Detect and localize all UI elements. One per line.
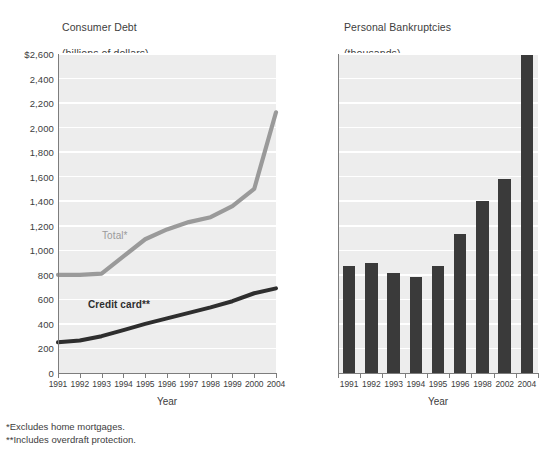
x-axis-tick — [494, 373, 495, 378]
bar — [521, 55, 533, 373]
x-axis-tick-label: 1996 — [451, 379, 470, 389]
y-axis-tick-label: 1,200 — [30, 220, 54, 231]
x-axis-tick — [516, 373, 517, 378]
bar — [432, 266, 444, 373]
y-axis-tick-label: 800 — [38, 269, 54, 280]
x-axis-tick — [232, 373, 233, 378]
x-axis-tick-label: 1997 — [180, 379, 199, 389]
gridline — [338, 127, 538, 129]
bar — [343, 266, 355, 373]
gridline — [338, 151, 538, 153]
x-axis-caption-personal-bankruptcies: Year — [428, 396, 448, 407]
y-axis-tick-label: 1,400 — [30, 196, 54, 207]
x-axis-tick — [405, 373, 406, 378]
x-axis-tick-label: 2000 — [245, 379, 264, 389]
x-axis-tick — [471, 373, 472, 378]
x-axis-tick — [254, 373, 255, 378]
series-label-total: Total* — [102, 230, 128, 241]
bar — [476, 201, 488, 373]
x-axis-tick — [167, 373, 168, 378]
x-axis-tick-label: 1994 — [407, 379, 426, 389]
y-axis-labels-consumer-debt: 02004006008001,0001,2001,4001,6001,8002,… — [2, 54, 54, 373]
x-axis-tick-label: 1991 — [49, 379, 68, 389]
x-axis-tick-label: 2004 — [518, 379, 537, 389]
plot-area-personal-bankruptcies — [338, 54, 538, 373]
footnote-1: *Excludes home mortgages. — [6, 420, 136, 433]
x-axis-caption-consumer-debt: Year — [157, 396, 177, 407]
x-axis-tick-label: 1991 — [340, 379, 359, 389]
y-axis-tick-label: 2,200 — [30, 98, 54, 109]
x-axis-tick — [189, 373, 190, 378]
x-axis-tick-label: 1995 — [136, 379, 155, 389]
gridline — [338, 78, 538, 80]
x-axis-tick — [276, 373, 277, 378]
plot-area-consumer-debt: Total* Credit card** — [58, 54, 276, 373]
y-axis-tick-label: 600 — [38, 294, 54, 305]
gridline — [338, 176, 538, 178]
bar — [387, 273, 399, 373]
x-axis-tick — [211, 373, 212, 378]
y-axis-tick-label: 2,000 — [30, 122, 54, 133]
y-axis-tick-label: 400 — [38, 318, 54, 329]
x-axis-tick — [145, 373, 146, 378]
x-axis-tick — [382, 373, 383, 378]
figure-consumer-debt-bankruptcies: Consumer Debt (billions of dollars) Tota… — [0, 0, 555, 462]
x-axis-tick-label: 1992 — [71, 379, 90, 389]
series-line-total — [58, 112, 276, 275]
x-axis-tick-label: 1998 — [201, 379, 220, 389]
chart-title-main: Consumer Debt — [62, 21, 149, 34]
x-axis-tick-label: 1998 — [473, 379, 492, 389]
gridline — [338, 53, 538, 55]
series-line-credit-card — [58, 288, 276, 342]
chart-panel-consumer-debt: Consumer Debt (billions of dollars) Tota… — [0, 0, 290, 418]
x-axis-tick — [427, 373, 428, 378]
x-axis-tick-label: 1994 — [114, 379, 133, 389]
x-axis-tick — [538, 373, 539, 378]
x-axis-tick — [360, 373, 361, 378]
y-axis-tick-label: $2,600 — [24, 49, 54, 60]
y-axis-tick-label: 2,400 — [30, 73, 54, 84]
gridline — [338, 102, 538, 104]
series-label-credit-card: Credit card** — [88, 299, 150, 310]
x-axis-tick-label: 1993 — [92, 379, 111, 389]
y-axis-tick-label: 1,000 — [30, 245, 54, 256]
bar — [410, 277, 422, 373]
x-axis-tick-label: 2002 — [495, 379, 514, 389]
x-axis-tick — [80, 373, 81, 378]
x-axis-tick — [123, 373, 124, 378]
x-axis-tick-label: 1996 — [158, 379, 177, 389]
chart-title-main: Personal Bankruptcies — [344, 21, 451, 34]
series-layer-consumer-debt — [58, 54, 276, 373]
x-axis-tick — [58, 373, 59, 378]
bar — [365, 263, 377, 373]
x-axis-tick-label: 1993 — [384, 379, 403, 389]
x-axis-labels-personal-bankruptcies: 199119921993199419951996199820022004 — [338, 379, 538, 393]
x-axis-tick — [102, 373, 103, 378]
y-axis-line — [58, 54, 59, 373]
x-axis-labels-consumer-debt: 1991199219931994199519961997199819992000… — [58, 379, 276, 393]
bar — [498, 179, 510, 373]
x-axis-tick-label: 1995 — [429, 379, 448, 389]
chart-panel-personal-bankruptcies: Personal Bankruptcies (thousands) 020040… — [290, 0, 555, 418]
y-axis-tick-label: 1,600 — [30, 171, 54, 182]
x-axis-tick-label: 1999 — [223, 379, 242, 389]
x-axis-tick-label: 2004 — [267, 379, 286, 389]
y-axis-tick-label: 0 — [49, 368, 54, 379]
y-axis-line — [338, 54, 339, 373]
x-axis-tick — [449, 373, 450, 378]
footnote-2: **Includes overdraft protection. — [6, 433, 136, 446]
x-axis-line — [338, 373, 538, 374]
x-axis-tick — [338, 373, 339, 378]
footnotes: *Excludes home mortgages. **Includes ove… — [6, 420, 136, 446]
y-axis-tick-label: 200 — [38, 343, 54, 354]
y-axis-tick-label: 1,800 — [30, 147, 54, 158]
x-axis-tick-label: 1992 — [362, 379, 381, 389]
bar — [454, 234, 466, 373]
